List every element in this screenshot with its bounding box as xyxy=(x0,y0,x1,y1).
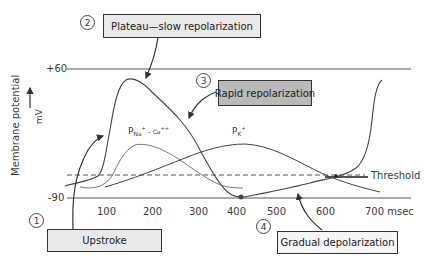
p-k-curve xyxy=(105,144,380,192)
plateau-box: Plateau—slow repolarization xyxy=(103,14,261,38)
y-axis-label: Membrane potential xyxy=(10,75,21,176)
threshold-intersection-dot xyxy=(334,174,338,178)
phase-3-number: 3 xyxy=(196,73,211,88)
upstroke-box: Upstroke xyxy=(47,229,162,252)
rapid-repol-arrow xyxy=(189,92,216,118)
y-axis-unit: mV xyxy=(34,109,44,124)
plateau-arrow xyxy=(146,37,158,78)
minimum-dot xyxy=(239,195,244,200)
x-tick-300: 300 xyxy=(189,207,208,217)
x-tick-100: 100 xyxy=(97,207,116,217)
p-na-ca-sub: Na xyxy=(133,130,141,137)
x-tick-600: 600 xyxy=(316,207,335,217)
y-tick-minus90: -90 xyxy=(48,193,64,203)
action-potential-diagram xyxy=(0,0,427,262)
p-k-sub: K xyxy=(237,130,241,137)
p-na-ca-mid: – Ca xyxy=(146,128,161,135)
p-k-sup: + xyxy=(241,125,245,131)
gradual-depolarization-box: Gradual depolarization xyxy=(277,231,398,254)
threshold-label: Threshold xyxy=(371,171,420,181)
x-tick-700-msec: 700 msec xyxy=(365,207,414,217)
x-tick-200: 200 xyxy=(143,207,162,217)
y-tick-plus60: +60 xyxy=(46,64,67,74)
x-tick-500: 500 xyxy=(267,207,286,217)
rapid-repolarization-box: Rapid repolarization xyxy=(218,80,312,106)
phase-4-number: 4 xyxy=(256,219,271,234)
p-na-ca-sup2: ++ xyxy=(161,125,169,131)
p-k-label: PK+ xyxy=(232,126,246,137)
p-na-ca-label: PNa+ – Ca++ xyxy=(128,126,169,137)
x-tick-400: 400 xyxy=(227,207,246,217)
phase-1-number: 1 xyxy=(29,213,44,228)
phase-2-number: 2 xyxy=(80,15,95,30)
